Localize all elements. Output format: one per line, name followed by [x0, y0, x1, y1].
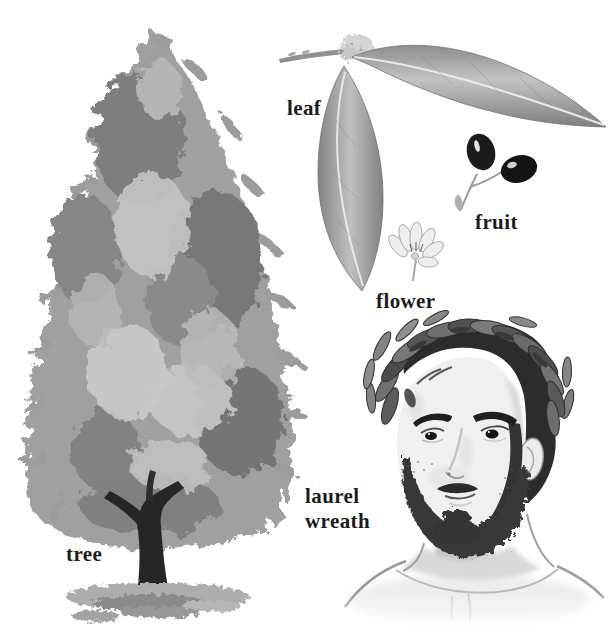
laurel-figure-panel: leaf fruit flower laurelwreath tree: [0, 0, 612, 636]
laurel-wreath-portrait-illustration: [320, 308, 612, 636]
label-tree: tree: [66, 542, 102, 567]
label-flower: flower: [376, 289, 436, 314]
berry-large: [463, 131, 499, 174]
label-fruit: fruit: [475, 210, 518, 235]
laurel-tree-illustration: [17, 28, 308, 622]
laurel-branch-leaves-illustration: [279, 34, 606, 291]
twig: [279, 49, 345, 63]
flower-center: [412, 253, 419, 260]
grass-mound: [66, 583, 250, 622]
flower-stem: [413, 260, 416, 281]
leaf-blade-hanging: [318, 66, 383, 291]
label-laurel-wreath: laurelwreath: [305, 484, 370, 534]
label-laurel-wreath-line1: laurel: [305, 484, 360, 508]
laurel-flower-illustration: [385, 222, 446, 281]
label-laurel-wreath-line2: wreath: [305, 509, 370, 533]
leaf-blade-horizontal: [352, 45, 606, 127]
laurel-berries-illustration: [455, 131, 541, 211]
berry-small: [497, 151, 540, 187]
portrait-fade: [320, 592, 612, 636]
tree-foliage: [17, 28, 308, 550]
label-leaf: leaf: [287, 96, 321, 121]
fruit-stem: [461, 174, 477, 210]
